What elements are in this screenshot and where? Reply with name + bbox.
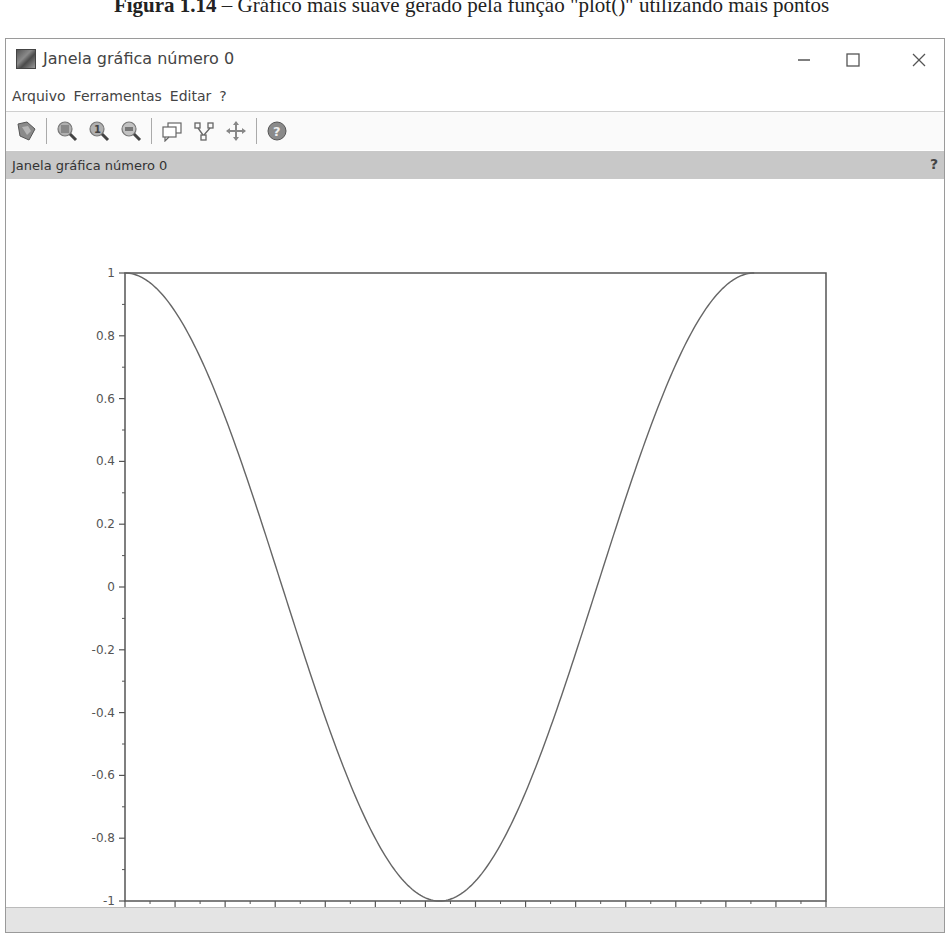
rotate-icon [15, 120, 37, 142]
help-icon: ? [266, 120, 288, 142]
y-tick-label: -0.8 [92, 831, 115, 845]
y-tick-label: -1 [103, 894, 115, 907]
title-bar[interactable]: Janela gráfica número 0 [6, 39, 944, 81]
minimize-button[interactable] [781, 43, 827, 77]
figure-caption: Figura 1.14 – Gráfico mais suave gerado … [0, 0, 943, 18]
menu-ferramentas[interactable]: Ferramentas [74, 88, 162, 104]
toolbar: 1 [6, 111, 944, 150]
zoom-in-button[interactable] [55, 119, 79, 143]
datatip-button[interactable] [160, 119, 184, 143]
strip-help-icon[interactable]: ? [930, 156, 938, 172]
figure-name-label: Janela gráfica número 0 [12, 158, 167, 173]
help-button[interactable]: ? [265, 119, 289, 143]
y-tick-label: -0.2 [92, 643, 115, 657]
y-tick-label: 0.2 [96, 517, 115, 531]
svg-text:1: 1 [94, 124, 101, 135]
status-bar [6, 907, 944, 932]
menu-help[interactable]: ? [219, 88, 226, 104]
close-icon [911, 52, 927, 68]
figure-caption-text: – Gráfico mais suave gerado pela função … [217, 0, 830, 17]
graphic-window: Janela gráfica número 0 Arquivo Ferramen… [5, 38, 945, 933]
toolbar-separator [151, 118, 152, 144]
editor-icon [193, 120, 215, 142]
plot-canvas[interactable]: 00.511.522.533.544.555.566.5710.80.60.40… [6, 179, 944, 907]
zoom-out-button[interactable] [119, 119, 143, 143]
plot-axes-box [125, 273, 826, 901]
close-button[interactable] [896, 43, 942, 77]
pan-button[interactable] [224, 119, 248, 143]
menu-editar[interactable]: Editar [170, 88, 211, 104]
y-tick-label: 0.4 [96, 454, 115, 468]
svg-text:?: ? [273, 124, 281, 139]
y-tick-label: 0 [107, 580, 115, 594]
scilab-app-icon [16, 49, 36, 69]
zoom-out-icon [120, 120, 142, 142]
window-title: Janela gráfica número 0 [43, 49, 234, 68]
zoom-in-icon [56, 120, 78, 142]
y-tick-label: 1 [107, 266, 115, 280]
toolbar-separator [256, 118, 257, 144]
minimize-icon [796, 52, 812, 68]
y-tick-label: -0.4 [92, 706, 115, 720]
rotate-button[interactable] [14, 119, 38, 143]
datatip-icon [161, 120, 183, 142]
cosine-plot: 00.511.522.533.544.555.566.5710.80.60.40… [6, 179, 944, 907]
toolbar-separator [46, 118, 47, 144]
maximize-icon [845, 52, 861, 68]
zoom-original-icon: 1 [88, 120, 110, 142]
cosine-curve [125, 273, 754, 901]
y-tick-label: -0.6 [92, 768, 115, 782]
figure-label: Figura 1.14 [114, 0, 217, 17]
pan-icon [225, 120, 247, 142]
maximize-button[interactable] [830, 43, 876, 77]
y-tick-label: 0.6 [96, 392, 115, 406]
menu-bar: Arquivo Ferramentas Editar ? [6, 83, 944, 109]
figure-name-strip: Janela gráfica número 0 ? [6, 151, 944, 179]
y-tick-label: 0.8 [96, 329, 115, 343]
zoom-original-button[interactable]: 1 [87, 119, 111, 143]
editor-button[interactable] [192, 119, 216, 143]
menu-arquivo[interactable]: Arquivo [12, 88, 66, 104]
